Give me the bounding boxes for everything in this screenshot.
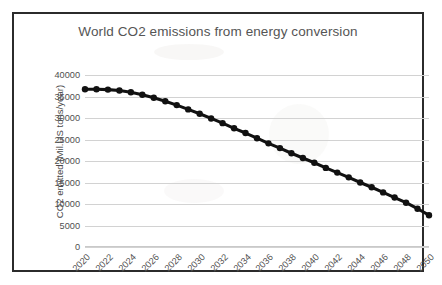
x-axis-tick-label: 2030: [185, 252, 207, 274]
data-point-marker: [391, 194, 397, 200]
data-point-marker: [288, 150, 294, 156]
x-axis-tick-label: 2042: [323, 252, 345, 274]
data-point-marker: [196, 111, 202, 117]
x-axis-tick-text: 2022: [93, 252, 115, 274]
data-point-marker: [414, 206, 420, 212]
data-point-marker: [93, 86, 99, 92]
x-axis-tick-text: 2042: [323, 252, 345, 274]
x-axis-tick-label: 2024: [116, 252, 138, 274]
x-axis-tick-text: 2044: [346, 252, 368, 274]
data-point-marker: [128, 89, 134, 95]
data-point-marker: [208, 115, 214, 121]
x-axis-tick-label: 2048: [392, 252, 414, 274]
chart-title: World CO2 emissions from energy conversi…: [14, 24, 422, 39]
x-axis-tick-text: 2024: [116, 252, 138, 274]
data-point-marker: [231, 125, 237, 131]
x-axis-tick-label: 2032: [208, 252, 230, 274]
x-axis-tick-label: 2038: [277, 252, 299, 274]
x-axis-tick-label: 2050: [415, 252, 437, 274]
chart-frame: World CO2 emissions from energy conversi…: [12, 12, 424, 272]
data-series: [85, 75, 429, 247]
data-point-marker: [380, 189, 386, 195]
y-axis-title-wrap: CO2 emitted (Mil.US tons/year): [36, 14, 56, 285]
y-axis-tick-label: 10000: [54, 199, 80, 209]
x-axis-tick-label: 2020: [71, 252, 93, 274]
data-point-marker: [265, 140, 271, 146]
x-axis-tick-text: 2030: [185, 252, 207, 274]
x-axis-tick-text: 2048: [392, 252, 414, 274]
y-axis-tick-label: 30000: [54, 113, 80, 123]
data-point-marker: [368, 184, 374, 190]
y-axis-tick-label: 5000: [60, 221, 80, 231]
x-axis-tick-label: 2022: [93, 252, 115, 274]
data-point-marker: [277, 145, 283, 151]
data-point-marker: [151, 95, 157, 101]
x-axis-tick-label: 2034: [231, 252, 253, 274]
y-axis-tick-label: 0: [75, 242, 80, 252]
data-point-marker: [162, 98, 168, 104]
x-axis-tick-label: 2036: [254, 252, 276, 274]
y-axis-tick-label: 25000: [54, 135, 80, 145]
data-point-marker: [139, 92, 145, 98]
data-point-marker: [403, 200, 409, 206]
x-axis-tick-text: 2036: [254, 252, 276, 274]
data-point-marker: [357, 179, 363, 185]
data-point-marker: [334, 169, 340, 175]
y-axis-tick-label: 15000: [54, 178, 80, 188]
data-point-marker: [346, 174, 352, 180]
x-axis-tick-text: 2050: [415, 252, 437, 274]
data-point-marker: [219, 120, 225, 126]
x-axis-tick-label: 2026: [139, 252, 161, 274]
data-point-marker: [426, 212, 432, 218]
data-markers: [82, 86, 432, 218]
data-point-marker: [254, 135, 260, 141]
plot-area: 4000035000300002500020000150001000050000…: [85, 75, 429, 247]
x-axis-tick-text: 2026: [139, 252, 161, 274]
x-axis-tick-text: 2038: [277, 252, 299, 274]
data-point-marker: [116, 87, 122, 93]
x-axis-tick-text: 2034: [231, 252, 253, 274]
data-point-marker: [242, 130, 248, 136]
data-point-marker: [323, 165, 329, 171]
x-axis-tick-label: 2046: [369, 252, 391, 274]
data-point-marker: [105, 86, 111, 92]
y-axis-tick-label: 40000: [54, 70, 80, 80]
data-point-marker: [185, 106, 191, 112]
data-line: [85, 89, 429, 215]
data-point-marker: [300, 155, 306, 161]
x-axis-tick-text: 2028: [162, 252, 184, 274]
data-point-marker: [174, 102, 180, 108]
data-point-marker: [311, 160, 317, 166]
x-axis-tick-text: 2046: [369, 252, 391, 274]
x-axis-tick-text: 2020: [71, 252, 93, 274]
x-axis-tick-text: 2032: [208, 252, 230, 274]
x-axis-tick-text: 2040: [300, 252, 322, 274]
gridline: [85, 247, 429, 248]
x-axis-tick-label: 2028: [162, 252, 184, 274]
y-axis-tick-label: 35000: [54, 92, 80, 102]
data-point-marker: [82, 86, 88, 92]
x-axis-tick-label: 2044: [346, 252, 368, 274]
y-axis-tick-label: 20000: [54, 156, 80, 166]
x-axis-tick-label: 2040: [300, 252, 322, 274]
